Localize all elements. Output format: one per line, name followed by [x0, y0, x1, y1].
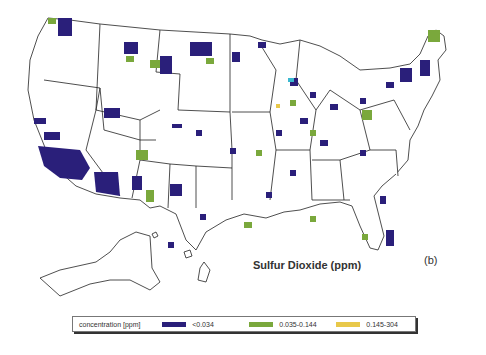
- us-map: [0, 0, 486, 310]
- map-title: Sulfur Dioxide (ppm): [253, 259, 361, 271]
- legend-label-high: 0.145-304: [366, 321, 415, 328]
- legend: concentration [ppm] <0.034 0.035-0.144 0…: [72, 316, 416, 332]
- legend-swatch-high: [336, 322, 360, 327]
- legend-swatch-low: [162, 322, 186, 327]
- legend-heading: concentration [ppm]: [79, 321, 154, 328]
- legend-swatch-mid: [249, 322, 273, 327]
- alaska: [40, 232, 160, 296]
- legend-label-mid: 0.035-0.144: [279, 321, 328, 328]
- legend-label-low: <0.034: [192, 321, 241, 328]
- panel-label: (b): [424, 254, 437, 266]
